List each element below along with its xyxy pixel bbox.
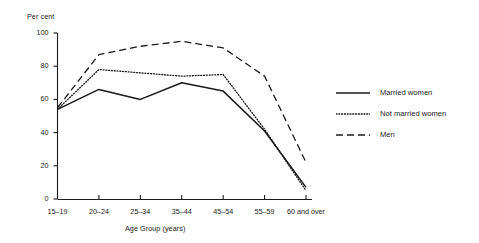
y-axis-tick-label: 100 [27,28,49,37]
y-axis-tick-label: 40 [27,128,49,137]
dotted-line-key [336,109,370,119]
axis-lines [58,33,313,200]
x-axis-tick-label: 15–19 [48,207,68,216]
x-axis-tick-label: 45–54 [213,207,233,216]
x-axis-ticks [58,195,307,199]
y-axis-tick-label: 80 [27,61,49,70]
legend-item[interactable]: Not married women [336,103,476,124]
data-series-group [58,41,307,190]
legend-item[interactable]: Married women [336,82,476,103]
dashed-line-key [336,130,370,140]
y-axis-title: Per cent [27,12,54,21]
chart-legend: Married womenNot married womenMen [336,82,476,145]
x-axis-tick-label: 35–44 [172,207,192,216]
x-axis-tick-label: 20–24 [89,207,109,216]
series-line-1 [58,70,307,191]
y-axis-tick-label: 0 [27,194,49,203]
legend-item[interactable]: Men [336,124,476,145]
y-axis-ticks [54,33,58,199]
y-axis-tick-label: 20 [27,161,49,170]
legend-item-label: Not married women [380,109,446,118]
x-axis-tick-label: 60 and over [287,207,325,216]
series-line-2 [58,41,307,162]
x-axis-tick-label: 55–59 [255,207,275,216]
solid-line-key [336,88,370,98]
x-axis-tick-label: 25–34 [130,207,150,216]
legend-item-label: Married women [380,88,432,97]
legend-item-label: Men [380,130,395,139]
line-chart-figure: Per cent Age Group (years) 020406080100 … [0,0,479,243]
x-axis-title: Age Group (years) [125,224,185,233]
y-axis-tick-label: 60 [27,94,49,103]
